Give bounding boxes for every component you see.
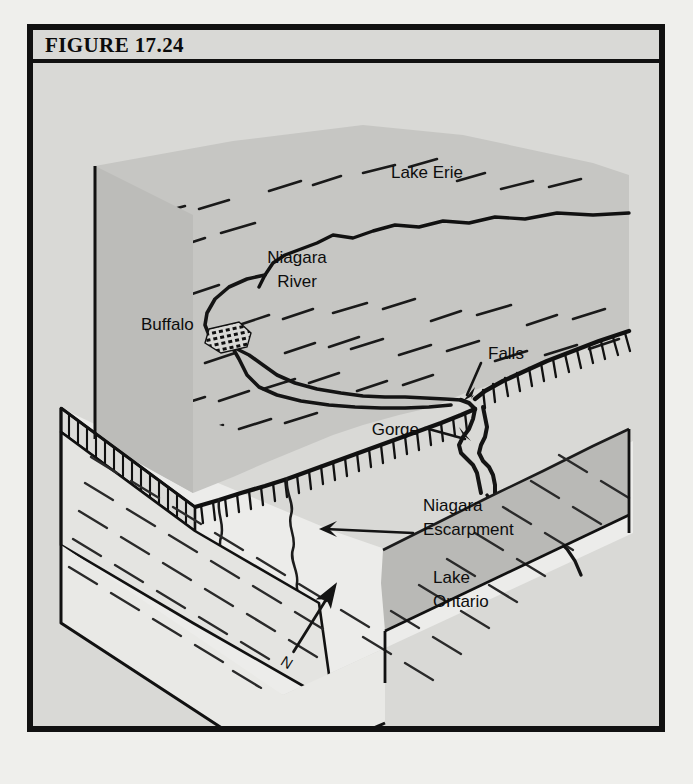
block-diagram-svg: N Lake Erie Niagara (33, 63, 659, 726)
figure-label-band: FIGURE 17.24 (33, 30, 659, 63)
label-niagara-river-line2: River (277, 272, 317, 291)
niagara-gorge (459, 407, 495, 495)
figure-root: FIGURE 17.24 (0, 0, 693, 784)
label-lake-ontario-line2: Ontario (433, 592, 489, 611)
block-diagram-drawing: N Lake Erie Niagara (33, 63, 659, 726)
label-niagara-river-line1: Niagara (267, 248, 327, 267)
label-falls: Falls (488, 344, 524, 363)
label-niagara-escarpment-line2: Escarpment (423, 520, 514, 539)
label-lake-erie: Lake Erie (391, 163, 463, 182)
label-niagara-escarpment-line1: Niagara (423, 496, 483, 515)
label-buffalo: Buffalo (141, 315, 194, 334)
figure-number-label: FIGURE 17.24 (45, 33, 184, 58)
figure-frame: FIGURE 17.24 (27, 24, 665, 732)
label-lake-ontario-line1: Lake (433, 568, 470, 587)
label-gorge: Gorge (372, 420, 419, 439)
